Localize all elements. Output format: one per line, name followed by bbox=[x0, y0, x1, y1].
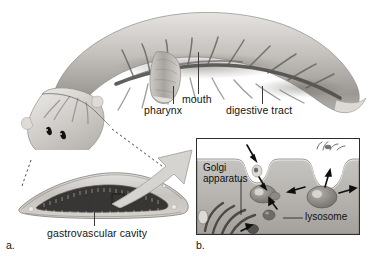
food-vacuole-right bbox=[307, 186, 337, 208]
figure-canvas: pharynx mouth digestive tract bbox=[0, 0, 369, 257]
label-golgi-line2: apparatus bbox=[203, 174, 247, 185]
panel-label-b: b. bbox=[196, 239, 205, 251]
inset-panel-cell-detail: Golgi apparatus lysosome bbox=[196, 138, 360, 235]
label-lysosome: lysosome bbox=[305, 212, 347, 223]
food-particle-left bbox=[252, 165, 262, 177]
magnification-arrow bbox=[104, 146, 196, 208]
golgi-vesicle bbox=[198, 210, 208, 224]
panel-label-a: a. bbox=[6, 239, 15, 251]
label-golgi-line1: Golgi bbox=[203, 163, 226, 174]
